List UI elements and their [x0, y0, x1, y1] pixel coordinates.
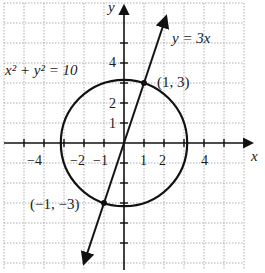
point-label-1-3: (1, 3): [157, 74, 190, 91]
graph: y x −4 −2 −1 1 2 4 1 2 4 x² + y² = 10 y …: [0, 0, 265, 273]
x-tick-label-neg4: −4: [27, 153, 42, 168]
x-tick-label-1: 1: [140, 153, 147, 168]
circle-equation-label: x² + y² = 10: [4, 62, 78, 78]
point-1-3: [141, 80, 147, 86]
x-tick-label-2: 2: [159, 153, 166, 168]
line-equation-label: y = 3x: [170, 30, 211, 46]
x-tick-label-neg2: −2: [70, 153, 85, 168]
x-tick-label-neg1: −1: [93, 153, 108, 168]
x-tick-label-4: 4: [201, 153, 208, 168]
y-tick-label-1: 1: [109, 116, 116, 131]
point-label-neg1-neg3: (−1, −3): [30, 196, 79, 213]
y-tick-label-2: 2: [109, 96, 116, 111]
x-axis-label: x: [250, 148, 258, 164]
y-axis-label: y: [106, 0, 115, 15]
point-neg1-neg3: [101, 200, 107, 206]
y-tick-label-4: 4: [109, 55, 116, 70]
